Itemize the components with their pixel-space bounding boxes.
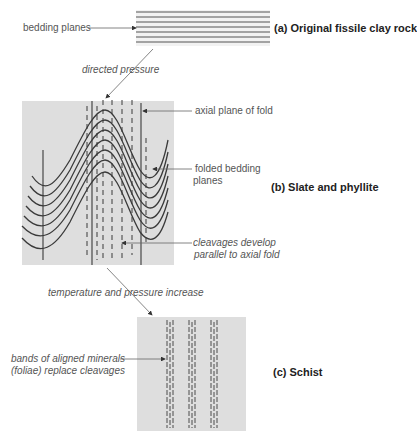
caption-panel-c: (c) Schist <box>273 366 323 378</box>
label-folded-bedding-line1: folded bedding <box>195 163 261 175</box>
label-cleavages-line2: parallel to axial fold <box>194 249 280 261</box>
panel-c-schist-block <box>137 317 246 431</box>
panel-b-fold-block <box>22 100 174 265</box>
caption-panel-b: (b) Slate and phyllite <box>271 181 379 193</box>
label-bedding-planes: bedding planes <box>23 22 91 34</box>
caption-panel-a: (a) Original fissile clay rock <box>274 22 417 34</box>
label-cleavages-line1: cleavages develop <box>193 237 276 249</box>
panel-a-bedding-block <box>136 10 270 46</box>
label-temperature-pressure: temperature and pressure increase <box>48 287 204 299</box>
label-directed-pressure: directed pressure <box>82 64 159 76</box>
label-folded-bedding-line2: planes <box>193 175 222 187</box>
label-axial-plane: axial plane of fold <box>195 105 273 117</box>
label-bands-line2: (foliae) replace cleavages <box>11 365 125 377</box>
label-bands-line1: bands of aligned minerals <box>11 353 125 365</box>
